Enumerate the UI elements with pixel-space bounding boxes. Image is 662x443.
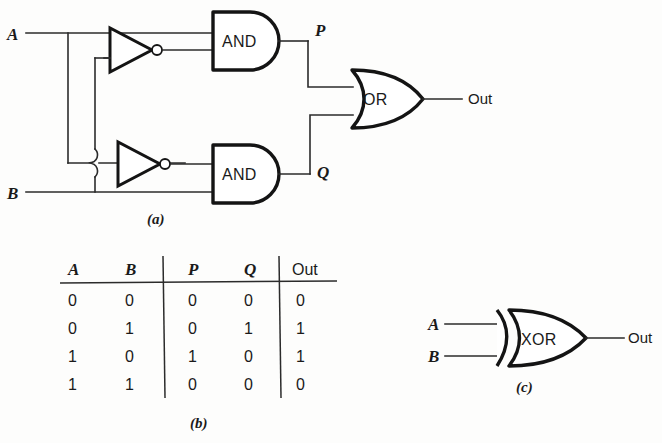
or-gate: OR (352, 70, 462, 128)
cell-p: 0 (188, 376, 197, 393)
and-gate-top: AND (213, 12, 308, 70)
cell-q: 0 (244, 376, 253, 393)
cell-b: 0 (125, 292, 134, 309)
cell-a: 0 (68, 292, 77, 309)
table-row: 1 0 1 0 1 (68, 348, 305, 365)
table-vrule-2 (279, 256, 281, 398)
xor-input-b-label: B (427, 347, 439, 366)
table-vrule-1 (163, 256, 165, 398)
cell-out: 1 (296, 320, 305, 337)
cell-a: 0 (68, 320, 77, 337)
and-gate-bottom-label: AND (222, 166, 257, 183)
table-header-a: A (67, 260, 79, 279)
table-header-rule (60, 281, 337, 283)
cell-p: 0 (188, 292, 197, 309)
wire-p-to-or-input-top (308, 41, 353, 87)
cell-b: 1 (125, 320, 134, 337)
output-out-label: Out (468, 90, 493, 107)
logic-circuit-figure: A B (0, 0, 662, 443)
cell-a: 1 (68, 348, 77, 365)
figure-root: A B (0, 0, 662, 443)
inverter-bottom-bubble-icon (160, 159, 170, 169)
table-header-b: B (124, 260, 136, 279)
circuit-diagram-a: A B (6, 12, 493, 228)
input-a-label: A (6, 25, 18, 44)
xor-gate-label: XOR (521, 331, 557, 348)
table-header-p: P (187, 260, 199, 279)
cell-b: 1 (125, 376, 134, 393)
caption-c: (c) (516, 379, 533, 396)
node-q-label: Q (317, 163, 329, 182)
caption-b: (b) (190, 415, 208, 432)
cell-q: 1 (244, 320, 253, 337)
cell-q: 0 (244, 348, 253, 365)
caption-a: (a) (147, 211, 165, 228)
table-header-q: Q (244, 260, 256, 279)
xor-symbol-c: A B XOR Out (c) (427, 310, 653, 396)
cell-q: 0 (244, 292, 253, 309)
and-gate-bottom: AND (213, 145, 310, 203)
table-row: 0 0 0 0 0 (68, 292, 305, 309)
cell-p: 0 (188, 320, 197, 337)
xor-gate-input-arc (497, 310, 507, 366)
and-gate-top-label: AND (222, 33, 257, 50)
cell-p: 1 (188, 348, 197, 365)
cell-out: 0 (296, 376, 305, 393)
node-p-label: P (314, 21, 326, 40)
or-gate-label: OR (363, 91, 388, 108)
cell-out: 1 (296, 348, 305, 365)
table-row: 0 1 0 1 1 (68, 320, 305, 337)
wire-a-hop-crossing (68, 149, 97, 177)
cell-a: 1 (68, 376, 77, 393)
inverter-top-triangle (110, 28, 152, 72)
inverter-top (104, 28, 212, 72)
inverter-bottom-triangle (118, 142, 160, 186)
table-row: 1 1 0 0 0 (68, 376, 305, 393)
table-header-out: Out (292, 261, 318, 278)
truth-table-b: A B P Q Out 0 0 0 0 0 0 1 0 1 (60, 256, 337, 432)
cell-b: 0 (125, 348, 134, 365)
inverter-bottom (118, 142, 212, 186)
cell-out: 0 (296, 292, 305, 309)
inverter-top-bubble-icon (152, 45, 162, 55)
input-b-label: B (6, 184, 18, 203)
xor-output-label: Out (628, 329, 653, 346)
xor-input-a-label: A (427, 315, 439, 334)
